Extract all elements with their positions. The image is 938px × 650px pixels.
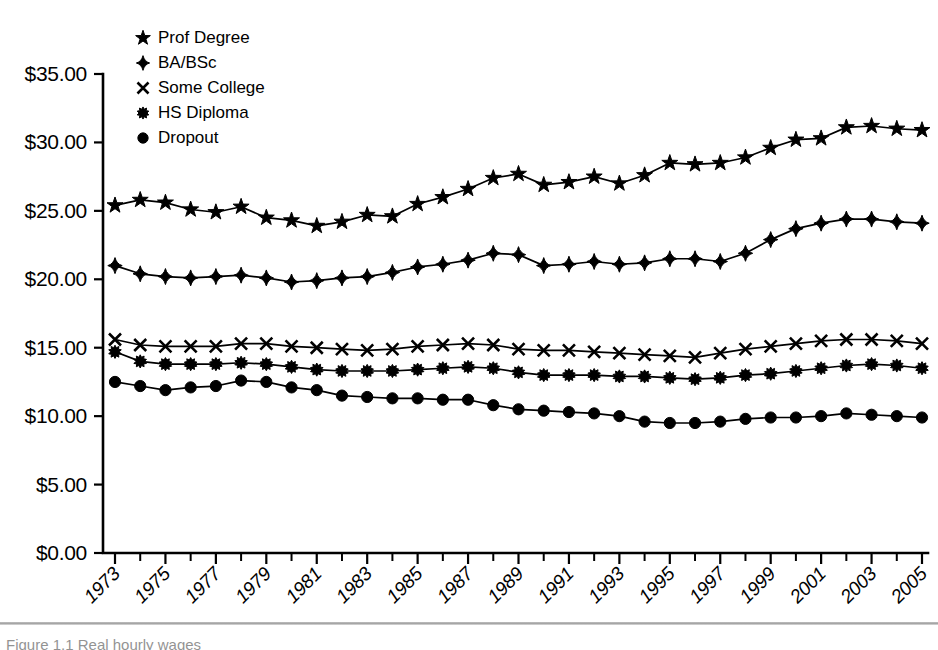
axis-lines [103,74,928,553]
circle-marker [138,133,148,143]
asterisk-marker [134,355,147,368]
star-marker [611,175,627,190]
diamond-marker [486,245,500,261]
diamond-marker [183,270,197,286]
star-marker [813,130,829,145]
asterisk-marker [411,363,424,376]
star-marker [132,192,148,207]
asterisk-marker [865,358,878,371]
asterisk-marker [815,362,828,375]
diamond-marker [890,214,904,230]
diamond-marker [562,256,576,272]
figure-caption: Figure 1.1 Real hourly wages [6,636,201,650]
x-axis-tick-label: 1983 [332,563,377,608]
asterisk-marker [739,368,752,381]
horizontal-divider [0,622,938,625]
legend-label: Prof Degree [158,28,250,47]
circle-marker [765,412,776,423]
x-axis-tick-labels: 1973197519771979198119831985198719891991… [80,562,932,608]
x-axis-tick-label: 1997 [685,562,730,607]
circle-marker [715,416,726,427]
circle-marker [639,416,650,427]
x-marker [137,82,148,93]
circle-marker [437,394,448,405]
star-marker [788,131,804,146]
star-marker [737,149,753,164]
diamond-marker [637,255,651,271]
diamond-marker [133,266,147,282]
star-marker [763,140,779,155]
circle-marker [286,382,297,393]
asterisk-marker [336,364,349,377]
figure-container: $0.00$5.00$10.00$15.00$20.00$25.00$30.00… [0,0,938,650]
legend-label: Some College [158,78,265,97]
legend-item: Prof Degree [136,28,250,47]
asterisk-marker [210,358,223,371]
y-axis-tick-label: $20.00 [25,267,87,290]
diamond-marker [136,56,149,71]
circle-marker [816,411,827,422]
asterisk-marker [764,367,777,380]
diamond-marker [587,253,601,269]
x-axis-tick-label: 1979 [231,563,276,608]
star-marker [687,156,703,171]
x-axis-tick-label: 1995 [634,563,679,608]
line-chart: $0.00$5.00$10.00$15.00$20.00$25.00$30.00… [0,0,938,650]
star-marker [334,213,350,228]
asterisk-marker [714,371,727,384]
diamond-marker [915,215,929,231]
legend-label: HS Diploma [158,103,249,122]
chart-axes [94,74,928,564]
diamond-marker [310,273,324,289]
x-axis-tick-label: 1975 [130,563,175,608]
circle-marker [210,380,221,391]
asterisk-marker [916,362,929,375]
circle-marker [916,412,927,423]
circle-marker [891,411,902,422]
diamond-marker [511,247,525,263]
diamond-marker [410,259,424,275]
diamond-marker [436,256,450,272]
circle-marker [664,417,675,428]
asterisk-marker [613,370,626,383]
circle-marker [538,405,549,416]
circle-marker [740,413,751,424]
star-marker [384,208,400,223]
asterisk-marker [512,366,525,379]
y-axis-tick-label: $25.00 [25,199,87,222]
x-axis-tick-label: 2003 [836,563,881,608]
series-prof-degree [107,118,930,233]
x-axis-tick-label: 1989 [483,563,528,608]
circle-marker [135,380,146,391]
diamond-marker [738,245,752,261]
circle-marker [589,408,600,419]
circle-marker [311,385,322,396]
legend-label: Dropout [158,128,219,147]
chart-series-group [107,118,930,429]
star-marker [637,167,653,182]
star-marker [712,155,728,170]
y-axis-tick-label: $10.00 [25,404,87,427]
circle-marker [790,412,801,423]
circle-marker [336,390,347,401]
star-marker [485,170,501,185]
diamond-marker [284,274,298,290]
series-dropout [109,375,927,429]
star-marker [410,196,426,211]
star-marker [662,155,678,170]
x-axis-tick-label: 1999 [735,563,780,608]
asterisk-marker [462,360,475,373]
diamond-marker [209,269,223,285]
circle-marker [185,382,196,393]
star-marker [586,168,602,183]
asterisk-marker [386,364,399,377]
star-marker [864,118,880,133]
star-marker [359,207,375,222]
asterisk-marker [689,373,702,386]
diamond-marker [158,269,172,285]
x-axis-tick-label: 1985 [382,563,427,608]
legend-item: BA/BSc [136,53,217,72]
star-marker [284,212,300,227]
star-marker [208,204,224,219]
asterisk-marker [137,107,149,119]
